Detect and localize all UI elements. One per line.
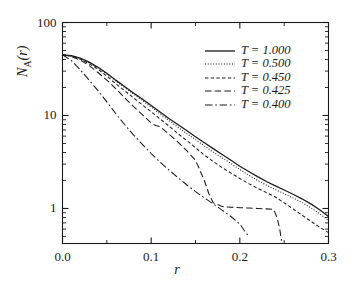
x-tick-label: 0.2: [215, 249, 265, 265]
x-tick-label: 0.1: [126, 249, 176, 265]
y-axis-label-tail: (r): [15, 46, 30, 61]
legend-label: T = 0.450: [241, 71, 291, 84]
plot-svg: [0, 0, 354, 291]
y-tick-label: 10: [17, 107, 57, 123]
x-tick-label: 0.3: [304, 249, 354, 265]
figure-canvas: NA(r) r 110100 0.00.10.20.3 T = 1.000T =…: [0, 0, 354, 291]
y-axis-label-main: N: [15, 68, 30, 77]
legend-entry: T = 0.450: [205, 71, 291, 84]
x-tick-label: 0.0: [38, 249, 88, 265]
y-axis-label-sub: A: [22, 60, 33, 67]
legend-line-sample: [205, 71, 235, 84]
y-tick-label: 1: [17, 200, 57, 216]
legend-label: T = 0.400: [241, 98, 291, 111]
legend-entry: T = 0.425: [205, 84, 291, 97]
legend-label: T = 0.500: [241, 57, 291, 70]
legend-label: T = 1.000: [241, 44, 291, 57]
legend: T = 1.000T = 0.500T = 0.450T = 0.425T = …: [205, 44, 291, 111]
y-tick-label: 100: [17, 15, 57, 31]
legend-line-sample: [205, 84, 235, 97]
legend-line-sample: [205, 98, 235, 111]
legend-line-sample: [205, 57, 235, 70]
legend-entry: T = 0.400: [205, 98, 291, 111]
legend-line-sample: [205, 44, 235, 57]
legend-entry: T = 1.000: [205, 44, 291, 57]
y-axis-label: NA(r): [15, 57, 33, 77]
legend-label: T = 0.425: [241, 84, 291, 97]
legend-entry: T = 0.500: [205, 57, 291, 70]
